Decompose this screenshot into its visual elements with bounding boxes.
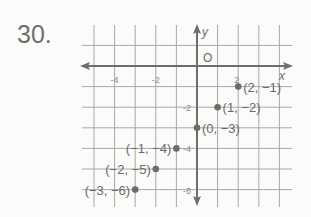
grid-lines: [82, 25, 292, 207]
point-label: (−2, −5): [105, 162, 151, 177]
data-point: [173, 145, 180, 152]
coordinate-plane: yxO-4-22-2-4-6 (2, −1)(1, −2)(0, −3)(−1,…: [0, 0, 311, 217]
y-tick-label: -6: [183, 186, 191, 196]
data-point: [214, 104, 221, 111]
origin-label: O: [203, 51, 212, 65]
x-tick-label: -4: [111, 75, 119, 85]
data-point: [132, 186, 139, 193]
y-tick-label: -4: [183, 144, 191, 154]
point-label: (2, −1): [243, 80, 281, 95]
x-tick-label: -2: [152, 75, 160, 85]
data-point: [153, 166, 160, 173]
axes: [80, 24, 293, 206]
y-tick-label: -2: [183, 103, 191, 113]
y-axis-label: y: [201, 25, 209, 39]
point-label: (1, −2): [223, 100, 261, 115]
data-point: [194, 125, 201, 132]
data-point: [235, 83, 242, 90]
point-label: (0, −3): [202, 121, 240, 136]
point-label: (−3, −6): [85, 183, 131, 198]
point-label: (−1, −4): [126, 141, 172, 156]
